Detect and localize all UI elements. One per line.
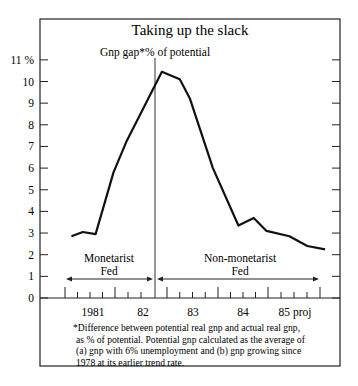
non-monetarist-arrow bbox=[157, 277, 319, 282]
chart-subtitle: Gnp gap*% of potential bbox=[100, 46, 210, 59]
footnote-line: as % of potential. Potential gnp calcula… bbox=[76, 334, 306, 345]
y-tick-label: 1 bbox=[28, 270, 34, 282]
y-tick-label: 5 bbox=[28, 184, 34, 196]
chart-title: Taking up the slack bbox=[132, 22, 249, 38]
monetarist-arrow bbox=[66, 277, 153, 282]
monetarist-label: Monetarist bbox=[84, 252, 135, 264]
y-tick-label: 11 % bbox=[10, 54, 34, 66]
y-tick-label: 3 bbox=[28, 227, 34, 239]
x-tick-label: 84 bbox=[237, 306, 249, 318]
y-tick-label: 7 bbox=[28, 140, 34, 152]
y-tick-label: 2 bbox=[28, 249, 34, 261]
footnote-line: (a) gnp with 6% unemployment and (b) gnp… bbox=[76, 345, 301, 357]
monetarist-fed-label: Fed bbox=[100, 265, 118, 277]
chart: Taking up the slack Gnp gap*% of potenti… bbox=[0, 0, 358, 386]
y-tick-label: 4 bbox=[28, 205, 34, 217]
x-tick-label: 82 bbox=[137, 306, 149, 318]
y-tick-label: 6 bbox=[28, 162, 34, 174]
footnote-line: 1978 at its earlier trend rate. bbox=[76, 357, 184, 368]
gnp-gap-line bbox=[71, 72, 325, 250]
non-monetarist-fed-label: Fed bbox=[231, 265, 249, 277]
x-axis: 198182838485 proj bbox=[40, 287, 340, 319]
x-tick-label: 85 proj bbox=[279, 306, 312, 319]
footnote-line: *Difference between potential real gnp a… bbox=[73, 322, 300, 333]
y-tick-label: 9 bbox=[28, 97, 34, 109]
x-tick-label: 1981 bbox=[82, 306, 105, 318]
y-tick-label: 8 bbox=[28, 119, 34, 131]
footnote: *Difference between potential real gnp a… bbox=[73, 322, 306, 368]
non-monetarist-label: Non-monetarist bbox=[204, 252, 277, 264]
y-tick-label: 10 bbox=[23, 76, 35, 88]
x-tick-label: 83 bbox=[187, 306, 199, 318]
y-axis: 01234567891011 % bbox=[10, 54, 340, 304]
y-tick-label: 0 bbox=[28, 292, 34, 304]
